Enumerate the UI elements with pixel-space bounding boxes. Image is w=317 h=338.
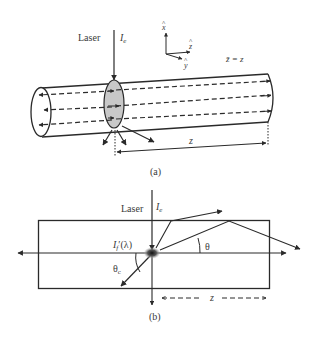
distance-label-b: z	[209, 292, 214, 303]
coordinate-axes: x ^ z ^ y ^	[161, 19, 193, 70]
panel-a: Laser Ie x ^ z ^ y ^ z̄ = z	[31, 19, 273, 178]
intensity-label-a: Ie	[119, 32, 126, 45]
distance-label-a: z	[188, 135, 193, 146]
svg-text:^: ^	[189, 37, 193, 45]
panel-b: Laser Ie θ θc If′(λ) z (b)	[18, 190, 300, 323]
radiated-rays	[103, 126, 154, 145]
laser-label-a: Laser	[78, 32, 101, 43]
theta-c-label: θc	[113, 263, 121, 276]
y-axis-arrow	[166, 54, 182, 59]
fluorescence-source	[144, 248, 160, 259]
theta-label: θ	[205, 241, 210, 252]
escaping-ray	[156, 211, 222, 248]
caption-b: (b)	[149, 311, 161, 323]
distance-dimension-b: z	[162, 292, 266, 303]
z-axis-arrow	[166, 52, 190, 54]
guided-ray	[160, 221, 300, 250]
theta-arc	[198, 238, 200, 253]
excitation-cross-section	[104, 80, 124, 128]
forward-guided-rays	[116, 81, 271, 119]
zbar-equation: z̄ = z	[225, 54, 244, 64]
forward-arrowheads	[260, 81, 271, 112]
laser-label-b: Laser	[121, 203, 144, 214]
caption-a: (a)	[150, 166, 161, 178]
fiber-diagram: Laser Ie x ^ z ^ y ^ z̄ = z	[0, 0, 317, 338]
fluorescence-label: If′(λ)	[112, 239, 132, 252]
intensity-label-b: Ie	[155, 201, 162, 214]
